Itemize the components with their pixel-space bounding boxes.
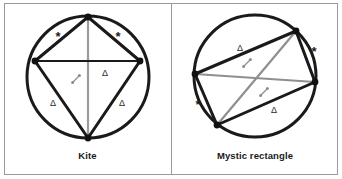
mystic-rectangle-vertex-dot-vertex-bottom-left xyxy=(214,122,221,129)
angle-mark-lower-dot-end xyxy=(266,87,269,90)
kite-vertex-dot-bottom xyxy=(85,135,92,142)
mystic-rectangle-mark-star-upper-right: * xyxy=(311,44,317,59)
kite-caption: Kite xyxy=(4,150,171,161)
mystic-rectangle-angle-mark-lower xyxy=(259,87,269,97)
right-angle-at-intersection-dot-end xyxy=(78,74,81,77)
angle-mark-lower-dot-start xyxy=(259,94,262,97)
right-angle-at-intersection-stroke xyxy=(73,76,79,82)
panel-kite: **ΔΔΔ Kite xyxy=(4,3,171,175)
mystic-rectangle-angle-mark-upper xyxy=(242,58,252,68)
angle-mark-upper-dot-start xyxy=(242,65,245,68)
figure-root: **ΔΔΔ Kite ΔΔ** Mystic rectangle xyxy=(0,0,342,179)
kite-mark-triangle-lower-left: Δ xyxy=(50,98,56,108)
mystic-rectangle-mark-triangle-lower-right: Δ xyxy=(271,105,277,115)
mystic-rectangle-vertex-dot-vertex-left xyxy=(192,71,199,78)
angle-mark-lower-stroke xyxy=(261,89,267,95)
angle-mark-upper-dot-end xyxy=(249,58,252,61)
right-angle-at-intersection-dot-start xyxy=(71,81,74,84)
angle-mark-upper-stroke xyxy=(244,60,250,66)
mystic-rectangle-vertex-dot-vertex-top-right xyxy=(293,28,300,35)
kite-mark-triangle-lower-right: Δ xyxy=(119,98,125,108)
mystic-rectangle-diagram: ΔΔ** xyxy=(172,3,338,153)
kite-vertex-dot-side-right xyxy=(137,58,144,65)
kite-vertex-dot-side-left xyxy=(32,58,39,65)
mystic-rectangle-vertex-dot-vertex-right xyxy=(312,79,319,86)
kite-mark-triangle-mid-right: Δ xyxy=(102,68,108,78)
mystic-rectangle-caption: Mystic rectangle xyxy=(172,150,338,161)
kite-right-angle-at-intersection xyxy=(71,74,81,84)
panel-mystic-rectangle: ΔΔ** Mystic rectangle xyxy=(172,3,338,175)
kite-mark-star-upper-right: * xyxy=(115,29,121,44)
kite-diagram: **ΔΔΔ xyxy=(4,3,171,153)
kite-vertex-dot-apex-top xyxy=(85,14,92,21)
mystic-rectangle-mark-triangle-upper-left: Δ xyxy=(237,43,243,53)
